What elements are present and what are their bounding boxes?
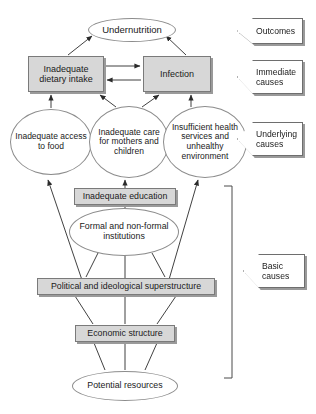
edge-dietary-to-undernutrition [68,36,92,55]
callout-outcomes-label: Outcomes [237,26,303,36]
node-inadequate-access-to-food-label: Inadequate access to food [14,132,88,151]
edge-infection-to-undernutrition [166,36,186,55]
node-inadequate-dietary-intake: Inadequate dietary intake [28,56,104,92]
node-insufficient-health-services: Insufficient health services and unhealt… [163,106,247,178]
edge-political-to-institutions-right [152,253,165,277]
edge-economic-to-political-left [75,296,93,324]
node-inadequate-care-for-mothers-and-children: Inadequate care for mothers and children [89,106,169,178]
edge-political-to-institutions-left [86,253,98,277]
conceptual-framework-diagram: Undernutrition Inadequate dietary intake… [0,0,316,414]
node-inadequate-dietary-intake-label: Inadequate dietary intake [33,64,99,84]
edge-potential-to-economic-left [94,343,105,370]
node-political-label: Political and ideological superstructure [51,282,201,292]
callout-immediate-causes-label: Immediate causes [237,67,303,88]
node-potential-resources: Potential resources [72,371,178,401]
edge-care-to-dietary [100,95,116,107]
node-inadequate-care-label: Inadequate care for mothers and children [93,128,165,157]
node-institutions-label: Formal and non-formal institutions [73,222,175,242]
node-economic-structure: Economic structure [75,325,175,342]
node-inadequate-access-to-food: Inadequate access to food [10,109,92,175]
node-undernutrition-label: Undernutrition [102,25,162,36]
callout-basic-causes-label: Basic causes [243,261,305,282]
callout-immediate-causes-line1: Immediate [256,67,300,77]
node-inadequate-education: Inadequate education [74,188,176,205]
callout-underlying-causes-label: Underlying causes [237,129,303,150]
callout-basic-causes-line1: Basic [262,261,302,271]
node-undernutrition: Undernutrition [88,18,176,42]
callout-immediate-causes-line2: causes [256,77,300,87]
node-insufficient-health-services-label: Insufficient health services and unhealt… [167,123,243,161]
callout-underlying-causes-line1: Underlying [256,129,300,139]
callout-underlying-causes-line2: causes [256,139,300,149]
node-infection-label: Infection [160,69,194,79]
callout-immediate-causes: Immediate causes [237,60,303,94]
basic-causes-bracket [224,186,232,378]
node-political-and-ideological-superstructure: Political and ideological superstructure [37,278,215,295]
node-economic-structure-label: Economic structure [87,329,162,339]
callout-outcomes: Outcomes [237,18,303,44]
edge-economic-to-political-right [157,296,176,324]
node-potential-resources-label: Potential resources [87,381,162,391]
edge-potential-to-economic-right [145,343,157,370]
node-infection: Infection [143,56,211,92]
edge-care-to-infection [142,95,159,107]
callout-underlying-causes: Underlying causes [237,122,303,156]
callout-basic-causes-line2: causes [262,271,302,281]
node-formal-and-non-formal-institutions: Formal and non-formal institutions [69,208,179,256]
callout-basic-causes: Basic causes [243,254,305,288]
node-inadequate-education-label: Inadequate education [83,192,168,202]
